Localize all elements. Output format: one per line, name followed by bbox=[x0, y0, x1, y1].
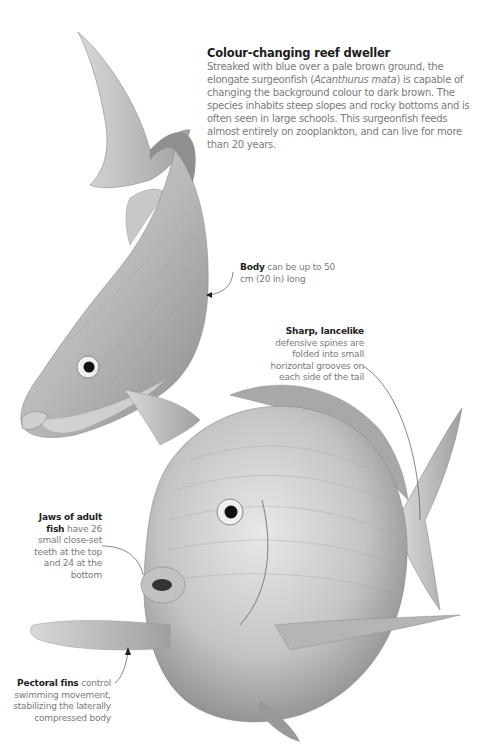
upper-fish-body bbox=[21, 150, 208, 438]
annotation-jaws: Jaws of adult fish have 26 small close-s… bbox=[22, 512, 102, 581]
annotation-body: Body can be up to 50 cm (20 in) long bbox=[240, 262, 340, 285]
upper-fish bbox=[21, 32, 208, 445]
annotation-spines: Sharp, lancelike defensive spines are fo… bbox=[248, 326, 364, 384]
pectoral-fin-left bbox=[30, 620, 170, 649]
intro-block: Colour-changing reef dweller Streaked wi… bbox=[207, 46, 472, 151]
intro-text: Streaked with blue over a pale brown gro… bbox=[207, 60, 472, 151]
body-leader bbox=[210, 272, 233, 295]
pelvic-fin bbox=[125, 390, 200, 445]
pectoral-leader bbox=[115, 652, 128, 683]
jaws-leader bbox=[102, 546, 143, 575]
annotation-pectoral: Pectoral fins control swimming movement,… bbox=[8, 678, 111, 724]
lower-fish-body bbox=[144, 406, 407, 722]
heading: Colour-changing reef dweller bbox=[207, 46, 472, 60]
species-name: Acanthurus mata bbox=[314, 74, 396, 85]
caudal-fin bbox=[400, 408, 462, 610]
